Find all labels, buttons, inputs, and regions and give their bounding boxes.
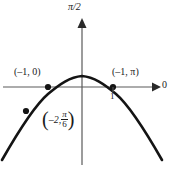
y-axis-arrowhead: [78, 18, 87, 28]
y-axis-label: π/2: [68, 2, 81, 12]
graph-canvas: [0, 0, 174, 169]
math-figure: π/2 0 (–1, 0) (–1, π) 1 (–2, π 6 ): [0, 0, 174, 169]
point-label-right: (–1, π): [112, 67, 139, 77]
point-label-left: (–1, 0): [14, 67, 41, 77]
x-tick-label-one: 1: [110, 92, 115, 101]
marked-point-left: [45, 84, 51, 90]
paren-close: ): [68, 109, 75, 129]
point-label-bottom: (–2, π 6 ): [42, 110, 74, 130]
x-axis-arrowhead: [152, 83, 161, 92]
bottom-label-x-value: –2,: [49, 115, 62, 125]
paren-open: (: [42, 109, 49, 129]
x-axis-label: 0: [162, 80, 167, 90]
marked-point-lower-left: [23, 108, 29, 114]
